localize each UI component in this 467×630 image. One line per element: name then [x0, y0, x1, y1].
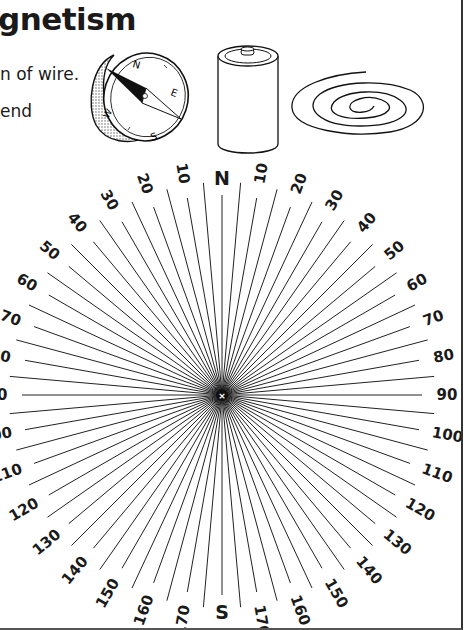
bearing-line [16, 395, 222, 450]
degree-label: 110 [419, 459, 455, 487]
degree-label: 20 [133, 171, 157, 197]
degree-label: 10 [172, 162, 193, 186]
degree-label: 120 [402, 494, 438, 525]
degree-label: 100 [0, 423, 13, 446]
degree-label: 20 [287, 171, 311, 197]
degree-label: 40 [64, 209, 91, 237]
degree-label: 30 [96, 187, 122, 214]
degree-label: 150 [321, 575, 352, 611]
degree-label: 160 [130, 592, 158, 628]
degree-label: 110 [0, 459, 25, 487]
degree-label: 60 [403, 269, 430, 295]
degree-label: 140 [58, 553, 92, 589]
degree-label: 80 [432, 345, 456, 366]
bearing-line [203, 395, 222, 607]
bearing-line [222, 202, 312, 395]
bearing-line [222, 183, 241, 395]
degree-label: 90 [0, 386, 7, 404]
bearing-line [132, 202, 222, 395]
cardinal-label: S [215, 601, 229, 623]
bearing-line [222, 395, 241, 607]
bearing-line [222, 395, 277, 601]
bearing-line [222, 340, 428, 395]
degree-label: 90 [437, 386, 458, 404]
bearing-line [10, 395, 222, 414]
bearing-line [10, 376, 222, 395]
degree-label: 60 [14, 269, 41, 295]
center-mark: × [218, 391, 226, 401]
degree-label: 80 [0, 345, 12, 366]
worksheet-page: gnetism n of wire. end N E S W [0, 0, 463, 630]
bearing-line [167, 395, 222, 601]
cardinal-label: N [214, 167, 230, 189]
degree-label: 70 [0, 306, 23, 330]
bearing-line [203, 183, 222, 395]
degree-label: 50 [381, 237, 409, 264]
bearing-line [16, 340, 222, 395]
bearing-line [29, 305, 222, 395]
degree-label: 150 [92, 575, 123, 611]
bearing-line [222, 305, 415, 395]
bearing-line [29, 395, 222, 485]
degree-label: 40 [353, 209, 380, 237]
degree-label: 170 [171, 604, 194, 628]
bearing-line [167, 189, 222, 395]
degree-label: 170 [250, 604, 273, 628]
degree-label: 10 [250, 162, 271, 186]
bearing-line [222, 395, 415, 485]
bearing-line [222, 376, 434, 395]
compass-rose: N102030405060708090100110120130140150160… [0, 0, 461, 628]
degree-label: 130 [29, 525, 65, 559]
degree-label: 70 [421, 306, 447, 330]
bearing-line [222, 395, 428, 450]
bearing-line [222, 189, 277, 395]
degree-label: 50 [36, 237, 64, 264]
degree-label: 130 [380, 525, 416, 559]
degree-label: 30 [321, 187, 347, 214]
bearing-line [222, 395, 434, 414]
bearing-line [132, 395, 222, 588]
degree-label: 100 [431, 423, 461, 446]
bearing-line [222, 395, 312, 588]
degree-label: 160 [286, 592, 314, 628]
degree-label: 140 [352, 553, 386, 589]
degree-label: 120 [6, 494, 42, 525]
